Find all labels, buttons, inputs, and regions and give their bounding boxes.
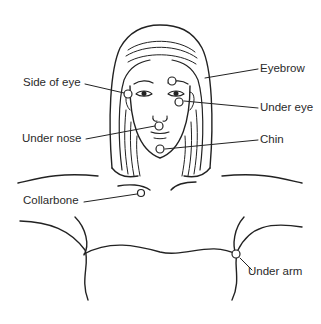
point-eyebrow (168, 77, 176, 85)
point-under-arm (232, 250, 240, 258)
point-side-of-eye (124, 90, 132, 98)
label-under-eye: Under eye (260, 102, 313, 114)
tapping-points-diagram: Side of eye Eyebrow Under eye Under nose… (0, 0, 321, 324)
label-under-nose: Under nose (22, 133, 81, 145)
chest-line (84, 245, 238, 255)
label-chin: Chin (260, 134, 284, 146)
point-under-eye (175, 98, 183, 106)
point-chin (156, 145, 164, 153)
label-side-of-eye: Side of eye (23, 77, 81, 89)
point-collarbone (138, 190, 145, 197)
left-shoulder (18, 175, 98, 183)
label-eyebrow: Eyebrow (260, 63, 305, 75)
label-under-arm: Under arm (248, 266, 302, 278)
right-shoulder (222, 175, 302, 183)
point-under-nose (155, 122, 163, 130)
label-collarbone: Collarbone (23, 195, 79, 207)
